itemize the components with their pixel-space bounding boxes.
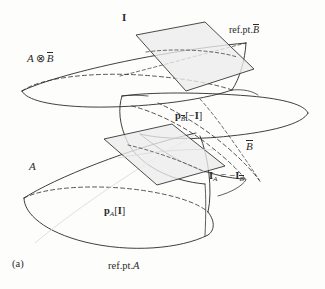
refpt-a-label: ref.pt.A xyxy=(108,261,140,272)
middle-cone-rim-top xyxy=(122,93,308,113)
a-tensor-bbar-label: A⊗B xyxy=(27,52,53,65)
lower-plane-IA xyxy=(104,124,225,185)
identity-subscript-bbar: B xyxy=(239,175,243,183)
refpt-bbar-label: ref.pt.B xyxy=(229,24,259,36)
upper-cone-rim-front xyxy=(22,90,232,107)
figure-container: .stroke { fill: none; stroke: #2a2a2a; s… xyxy=(0,0,325,289)
middle-cone-connector xyxy=(122,95,148,96)
projection-bbar-label: pB[−I] xyxy=(175,111,202,123)
bbar-symbol-standalone: B xyxy=(246,140,253,153)
tensor-operator-icon: ⊗ xyxy=(36,52,45,64)
figure-diagram: .stroke { fill: none; stroke: #2a2a2a; s… xyxy=(0,0,325,289)
vertical-connector xyxy=(205,180,246,236)
refpt-a-prefix: ref.pt. xyxy=(108,260,133,271)
refpt-a-symbol: A xyxy=(133,260,139,271)
bbar-label: B xyxy=(246,140,253,153)
identity-equation-label: IA=−IB xyxy=(209,171,244,183)
plane-I-label: I xyxy=(122,12,126,23)
refpt-bbar-prefix: ref.pt. xyxy=(229,24,253,35)
a-symbol: A xyxy=(27,52,34,64)
bracket-close: ] xyxy=(199,110,203,121)
upper-cone-tail xyxy=(232,90,258,95)
a-label: A xyxy=(29,161,36,172)
lower-plane-IA-face xyxy=(104,124,225,185)
subfigure-marker: (a) xyxy=(12,259,24,270)
projection-a-label: pA[I] xyxy=(104,206,125,218)
equals-sign: = xyxy=(220,170,226,181)
bracket-close-a: ] xyxy=(122,205,126,216)
refpt-bbar-symbol: B xyxy=(253,24,259,36)
bbar-symbol: B xyxy=(47,52,54,65)
identity-subscript-a: A xyxy=(213,176,217,183)
